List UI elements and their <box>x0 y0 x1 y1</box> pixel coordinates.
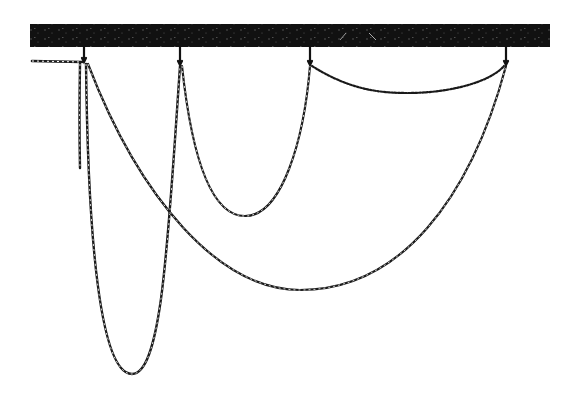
hanging-chains-illustration <box>0 0 569 409</box>
chains <box>32 61 506 374</box>
chain-deep-loop <box>86 64 180 374</box>
beam <box>30 24 550 47</box>
hook-icon <box>504 47 508 65</box>
hook-icon <box>82 47 86 62</box>
hooks <box>82 47 508 65</box>
hook-icon <box>308 47 312 65</box>
chain-long-span <box>88 64 506 290</box>
hook-icon <box>178 47 182 65</box>
chain-shallow-span <box>312 66 504 93</box>
chain-medium-loop <box>182 66 310 216</box>
